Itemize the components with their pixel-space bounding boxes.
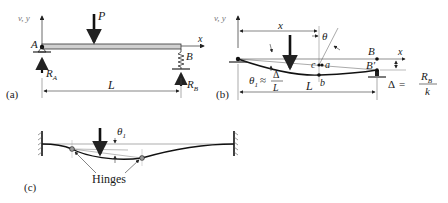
point-c-label: c [311, 59, 316, 70]
caption-c: (c) [24, 181, 37, 194]
pin-icon [236, 57, 240, 61]
span-label: L [107, 78, 115, 92]
spring-icon [178, 49, 184, 69]
beam-diagram: v, y x A RA P B RB L (a) v, y [0, 0, 448, 203]
panel-b: v, y x B B′ x θ c a b [214, 13, 437, 101]
reaction-a-label: RA [45, 67, 58, 82]
point-a-label: A [30, 38, 38, 50]
rb-num: RB [420, 70, 433, 85]
frac-den: L [272, 82, 279, 93]
point-B-label: B [368, 45, 375, 57]
panel-c: θ1 Hinges (c) [24, 125, 238, 194]
reaction-b-label: RB [186, 78, 199, 93]
point-b-label: b [320, 77, 325, 88]
frac-num: Δ [273, 69, 280, 80]
theta1-approx: θ1≈ [249, 74, 266, 89]
axis-label-vy: v, y [18, 13, 30, 23]
span-label: L [305, 79, 313, 93]
panel-a: v, y x A RA P B RB L (a) [6, 9, 204, 101]
point-B-dot [375, 57, 379, 61]
rb-den: k [425, 85, 431, 97]
deflected-curve [42, 144, 234, 159]
hinges-label: Hinges [92, 172, 126, 186]
point-Bprime-dot [375, 68, 379, 72]
axis-label-vy: v, y [214, 13, 226, 23]
x-label: x [397, 46, 403, 57]
beam [42, 44, 181, 49]
point-b-label: B [186, 50, 193, 62]
theta-label: θ [322, 30, 328, 42]
dist-x-label: x [277, 19, 283, 31]
load-p-label: P [97, 9, 106, 23]
delta-eq: Δ= [388, 78, 405, 90]
deflected-curve [238, 59, 377, 75]
point-Bprime-label: B′ [366, 59, 376, 71]
caption-b: (b) [216, 88, 229, 101]
point-a-label: a [325, 59, 330, 70]
caption-a: (a) [6, 88, 19, 101]
chord-line [238, 59, 377, 70]
x-label: x [197, 33, 203, 44]
theta1-label: θ1 [117, 125, 126, 140]
